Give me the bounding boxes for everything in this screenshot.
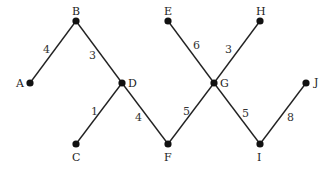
- node-F: [164, 140, 171, 147]
- edge-A-B: [30, 21, 76, 83]
- edge-weight-I-J: 8: [287, 112, 294, 123]
- edge-weight-D-C: 1: [91, 106, 98, 117]
- edge-weight-A-B: 4: [43, 44, 50, 55]
- node-label-E: E: [164, 6, 172, 17]
- node-I: [256, 140, 263, 147]
- node-D: [118, 79, 125, 86]
- node-label-B: B: [72, 6, 80, 17]
- edge-D-C: [76, 83, 122, 144]
- node-H: [256, 17, 263, 24]
- node-label-H: H: [256, 6, 266, 17]
- edge-E-G: [168, 21, 214, 83]
- node-label-G: G: [220, 78, 229, 89]
- edge-weight-B-D: 3: [89, 50, 96, 61]
- node-G: [210, 79, 217, 86]
- node-label-D: D: [128, 78, 137, 89]
- node-E: [164, 17, 171, 24]
- edge-weight-F-G: 5: [183, 106, 190, 117]
- graph-canvas: [0, 0, 331, 172]
- edge-weight-G-H: 3: [225, 44, 232, 55]
- node-B: [72, 17, 79, 24]
- edge-G-I: [214, 83, 260, 144]
- edge-B-D: [76, 21, 122, 83]
- node-label-C: C: [72, 152, 80, 163]
- node-label-J: J: [314, 77, 318, 88]
- edge-F-G: [168, 83, 214, 144]
- edge-I-J: [260, 83, 306, 144]
- node-C: [72, 140, 79, 147]
- edge-weight-D-F: 4: [135, 112, 142, 123]
- node-J: [302, 79, 309, 86]
- node-A: [26, 79, 33, 86]
- node-label-F: F: [164, 152, 172, 163]
- edge-D-F: [122, 83, 168, 144]
- edge-weight-G-I: 5: [242, 108, 249, 119]
- node-label-I: I: [257, 152, 261, 163]
- edge-G-H: [214, 21, 260, 83]
- node-label-A: A: [16, 78, 24, 89]
- edge-weight-E-G: 6: [193, 40, 200, 51]
- weighted-graph-diagram: 431463558ABCDEFGHIJ: [0, 0, 331, 172]
